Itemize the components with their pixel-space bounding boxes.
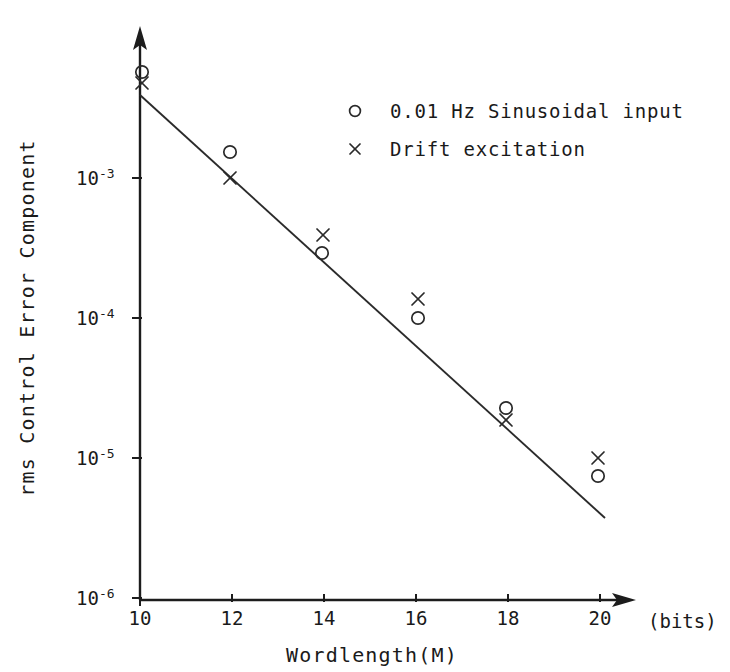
data-point-circle — [592, 470, 604, 482]
data-point-circle — [316, 247, 328, 259]
y-axis — [133, 26, 147, 600]
x-axis — [140, 593, 636, 607]
legend-cross-icon — [350, 144, 360, 154]
data-point-cross — [412, 293, 424, 305]
data-point-cross — [317, 229, 329, 241]
data-point-circle — [500, 402, 512, 414]
log-scatter-plot: 10-3 10-4 10-5 10-6 10 12 14 — [0, 0, 730, 672]
chart-figure: 10-3 10-4 10-5 10-6 10 12 14 — [0, 0, 730, 672]
x-tick-label-0: 10 — [129, 607, 152, 629]
data-point-circle — [136, 66, 148, 78]
x-tick-label-2: 14 — [313, 607, 336, 629]
y-tick-label-2: 10-5 — [76, 446, 115, 469]
x-axis-unit-label: (bits) — [648, 610, 717, 632]
data-point-cross — [500, 414, 512, 426]
y-tick-label-3: 10-6 — [76, 586, 115, 609]
data-point-cross — [224, 172, 236, 184]
series-sinusoidal-markers — [136, 66, 604, 482]
x-tick-label-5: 20 — [589, 607, 612, 629]
data-point-circle — [224, 146, 236, 158]
legend-circle-icon — [350, 106, 361, 117]
series-drift-markers — [136, 77, 604, 464]
y-axis-title: rms Control Error Component — [15, 139, 39, 497]
y-axis-tick-labels: 10-3 10-4 10-5 10-6 — [76, 166, 115, 609]
x-tick-label-1: 12 — [221, 607, 244, 629]
data-point-circle — [412, 312, 424, 324]
legend-entry-drift: Drift excitation — [350, 138, 586, 160]
y-tick-label-1: 10-4 — [76, 306, 115, 329]
x-tick-label-4: 18 — [497, 607, 520, 629]
data-point-cross — [592, 452, 604, 464]
x-axis-tick-labels: 10 12 14 16 18 20 — [129, 607, 612, 629]
x-tick-label-3: 16 — [405, 607, 428, 629]
legend-label-drift: Drift excitation — [390, 138, 586, 160]
y-tick-label-0: 10-3 — [76, 166, 115, 189]
legend-entry-sinusoidal: 0.01 Hz Sinusoidal input — [350, 100, 684, 122]
legend: 0.01 Hz Sinusoidal input Drift excitatio… — [350, 100, 684, 160]
legend-label-sinusoidal: 0.01 Hz Sinusoidal input — [390, 100, 684, 122]
x-axis-title: Wordlength(M) — [286, 643, 458, 667]
